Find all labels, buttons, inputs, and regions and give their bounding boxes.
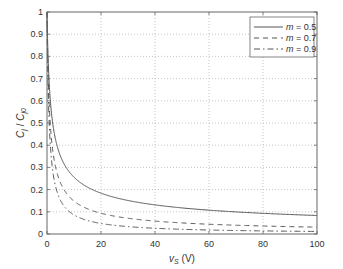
y-axis-label: Cj / Cj0 xyxy=(15,108,28,138)
y-tick-label: 0.4 xyxy=(30,140,43,150)
x-axis-label: vS (V) xyxy=(169,253,195,265)
svg-text:m = 0.9: m = 0.9 xyxy=(286,44,316,54)
y-tick-label: 0.6 xyxy=(30,96,43,106)
svg-text:m = 0.7: m = 0.7 xyxy=(286,33,316,43)
x-tick-labels: 020406080100 xyxy=(44,239,324,249)
y-tick-label: 0.8 xyxy=(30,51,43,61)
x-tick-label: 40 xyxy=(150,239,160,249)
y-tick-labels: 00.10.20.30.40.50.60.70.80.91 xyxy=(30,7,43,239)
x-tick-label: 80 xyxy=(258,239,268,249)
line-chart: 020406080100 00.10.20.30.40.50.60.70.80.… xyxy=(0,0,343,269)
y-tick-label: 0.2 xyxy=(30,185,43,195)
y-tick-label: 0 xyxy=(38,229,43,239)
x-tick-label: 60 xyxy=(204,239,214,249)
y-tick-label: 0.5 xyxy=(30,118,43,128)
y-tick-label: 0.3 xyxy=(30,162,43,172)
y-tick-label: 1 xyxy=(38,7,43,17)
x-tick-label: 0 xyxy=(44,239,49,249)
x-tick-label: 100 xyxy=(309,239,324,249)
x-tick-label: 20 xyxy=(96,239,106,249)
y-tick-label: 0.7 xyxy=(30,74,43,84)
svg-text:m = 0.5: m = 0.5 xyxy=(286,22,316,32)
legend: m = 0.5 m = 0.7 m = 0.9 xyxy=(250,17,316,57)
y-tick-label: 0.9 xyxy=(30,29,43,39)
y-tick-label: 0.1 xyxy=(30,207,43,217)
